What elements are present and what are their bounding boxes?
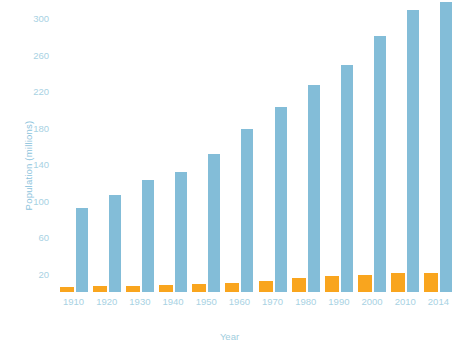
bar-primary <box>241 129 253 292</box>
bar-secondary <box>126 286 140 292</box>
bar-group <box>93 0 121 292</box>
bar-secondary <box>225 283 239 292</box>
bar-secondary <box>391 273 405 292</box>
x-tick-label: 1990 <box>328 296 349 307</box>
bar-primary <box>275 107 287 292</box>
bar-secondary <box>259 281 273 292</box>
bar-primary <box>76 208 88 292</box>
bar-group <box>259 0 287 292</box>
bar-secondary <box>424 273 438 292</box>
population-bar-chart: Population (millions) 206010014018022026… <box>0 0 459 353</box>
x-tick-label: 1910 <box>63 296 84 307</box>
bar-group <box>126 0 154 292</box>
bar-secondary <box>159 285 173 292</box>
bar-series-container <box>57 0 455 292</box>
x-tick-label: 1980 <box>295 296 316 307</box>
x-axis-tick-labels: 1910192019301940195019601970198019902000… <box>57 296 455 316</box>
x-tick-label: 2010 <box>395 296 416 307</box>
y-tick-label: 100 <box>33 195 49 206</box>
bar-group <box>159 0 187 292</box>
x-tick-label: 1940 <box>163 296 184 307</box>
bar-group <box>391 0 419 292</box>
y-tick-label: 20 <box>38 268 49 279</box>
bar-primary <box>440 2 452 292</box>
y-tick-label: 60 <box>38 232 49 243</box>
bar-group <box>192 0 220 292</box>
bar-primary <box>308 85 320 292</box>
bar-group <box>325 0 353 292</box>
plot-area <box>57 0 455 292</box>
x-tick-label: 1960 <box>229 296 250 307</box>
bar-group <box>60 0 88 292</box>
y-tick-label: 140 <box>33 159 49 170</box>
bar-group <box>358 0 386 292</box>
y-tick-label: 180 <box>33 122 49 133</box>
bar-secondary <box>292 278 306 292</box>
bar-secondary <box>93 286 107 292</box>
bar-group <box>424 0 452 292</box>
y-tick-label: 300 <box>33 13 49 24</box>
x-tick-label: 1950 <box>196 296 217 307</box>
bar-group <box>292 0 320 292</box>
x-axis-title: Year <box>0 331 459 342</box>
bar-primary <box>374 36 386 292</box>
x-tick-label: 1970 <box>262 296 283 307</box>
bar-primary <box>341 65 353 292</box>
bar-primary <box>175 172 187 292</box>
bar-primary <box>208 154 220 292</box>
y-tick-label: 260 <box>33 49 49 60</box>
bar-secondary <box>192 284 206 292</box>
bar-primary <box>407 10 419 292</box>
bar-group <box>225 0 253 292</box>
bar-primary <box>142 180 154 292</box>
bar-secondary <box>358 275 372 292</box>
bar-secondary <box>325 276 339 292</box>
x-tick-label: 2000 <box>362 296 383 307</box>
y-axis-tick-labels: 2060100140180220260300 <box>0 0 57 292</box>
x-tick-label: 1930 <box>129 296 150 307</box>
bar-primary <box>109 195 121 292</box>
x-tick-label: 2014 <box>428 296 449 307</box>
bar-secondary <box>60 287 74 292</box>
x-tick-label: 1920 <box>96 296 117 307</box>
y-tick-label: 220 <box>33 86 49 97</box>
